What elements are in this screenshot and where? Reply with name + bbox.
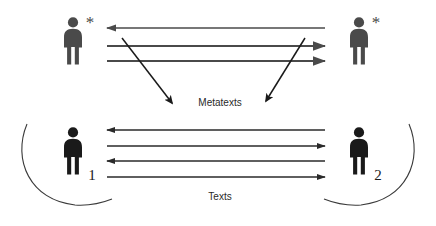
actor-number-label-two: 2 [374, 167, 382, 183]
bottom-left-actor-group: 1 [64, 127, 96, 183]
texts-label: Texts [208, 191, 231, 202]
top-right-actor-group: * [350, 13, 380, 65]
left-enclosing-arc [22, 124, 112, 205]
metatext-arrow-group [107, 28, 325, 61]
left-diagonal-arrow [122, 38, 172, 103]
asterisk-label-left: * [86, 13, 95, 32]
communication-model-diagram: * * Metatexts 1 [0, 0, 436, 226]
person-icon-meta-right [350, 17, 368, 64]
actor-number-label-one: 1 [88, 167, 96, 183]
right-diagonal-arrow [266, 38, 305, 101]
person-icon-two [350, 127, 368, 174]
person-icon-meta-left [64, 17, 82, 64]
bottom-right-actor-group: 2 [350, 127, 382, 183]
diagram-canvas: * * Metatexts 1 [0, 0, 436, 226]
right-enclosing-arc [324, 124, 414, 205]
diagonal-arrow-group [122, 38, 305, 103]
person-icon-one [64, 127, 82, 174]
text-arrow-group [107, 130, 325, 177]
metatexts-label: Metatexts [198, 97, 241, 108]
asterisk-label-right: * [372, 13, 381, 32]
top-left-actor-group: * [64, 13, 94, 65]
